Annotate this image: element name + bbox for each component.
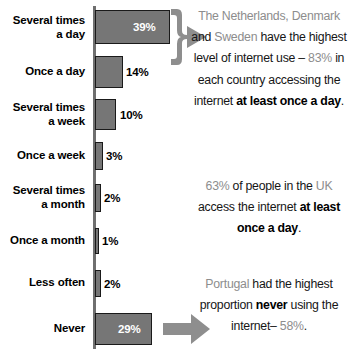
internet-use-frequency-infographic: Several times a day 39% Once a day 14% S… bbox=[0, 0, 352, 355]
bar-value: 14% bbox=[126, 67, 148, 79]
bar-label-line: a day bbox=[0, 28, 85, 42]
bar-value: 2% bbox=[104, 193, 120, 205]
bar-label: Several times a month bbox=[0, 184, 90, 211]
table-row: Never 29% bbox=[0, 313, 182, 345]
bar-label-line: a week bbox=[0, 115, 85, 129]
note1-period: . bbox=[341, 94, 344, 108]
bar-label: Several times a week bbox=[0, 101, 90, 128]
annotation-note-netherlands: The Netherlands, Denmark and Sweden have… bbox=[186, 6, 352, 112]
note1-countries-1: The Netherlands, bbox=[198, 9, 288, 23]
bar-label: Never bbox=[0, 322, 90, 336]
bar-label: Several times a day bbox=[0, 14, 90, 41]
bar bbox=[95, 56, 123, 88]
table-row: Once a month 1% bbox=[0, 228, 182, 254]
bar-label-line: Several times bbox=[0, 14, 85, 28]
bar-label-line: Once a day bbox=[0, 65, 85, 79]
bar bbox=[95, 184, 101, 212]
bar bbox=[95, 99, 116, 130]
bar-label: Once a day bbox=[0, 65, 90, 79]
note2-period: . bbox=[298, 221, 301, 235]
bar-value: 29% bbox=[118, 324, 140, 336]
table-row: Several times a day 39% bbox=[0, 10, 182, 44]
note2-country-uk: UK bbox=[316, 179, 333, 193]
bar bbox=[95, 142, 103, 170]
annotation-panel: The Netherlands, Denmark and Sweden have… bbox=[186, 0, 352, 355]
table-row: Once a day 14% bbox=[0, 56, 182, 88]
annotation-note-portugal: Portugal had the highest proportion neve… bbox=[186, 274, 352, 338]
annotation-note-uk: 63% of people in the UK access the inter… bbox=[186, 176, 352, 240]
bar-label-line: Once a week bbox=[0, 149, 85, 163]
bar-value: 10% bbox=[120, 110, 142, 122]
bar-label-line: Several times bbox=[0, 184, 85, 198]
bar-label-line: Several times bbox=[0, 101, 85, 115]
note3-country-portugal: Portugal bbox=[205, 277, 249, 291]
note1-emphasis: at least once a day bbox=[236, 94, 341, 108]
bar-value: 39% bbox=[133, 22, 155, 34]
horizontal-bar-chart: Several times a day 39% Once a day 14% S… bbox=[0, 0, 182, 355]
note2-text-2: access the internet bbox=[198, 200, 300, 214]
note3-stat-58: 58% bbox=[280, 319, 304, 333]
bar-label-line: Once a month bbox=[0, 234, 85, 248]
bar-label-line: Never bbox=[0, 322, 85, 336]
note2-text-1: of people in the bbox=[229, 179, 315, 193]
bar-label: Less often bbox=[0, 276, 90, 290]
bar-label: Once a week bbox=[0, 149, 90, 163]
table-row: Several times a week 10% bbox=[0, 99, 182, 130]
bar-label-line: Less often bbox=[0, 276, 85, 290]
bar-value: 1% bbox=[102, 236, 118, 248]
table-row: Less often 2% bbox=[0, 270, 182, 297]
bar bbox=[95, 228, 99, 254]
bar bbox=[95, 270, 101, 297]
note1-country-denmark: Denmark bbox=[292, 9, 340, 23]
note2-stat-63: 63% bbox=[206, 179, 230, 193]
bar-value: 2% bbox=[104, 279, 120, 291]
bar-label: Once a month bbox=[0, 234, 90, 248]
note1-conj: and bbox=[191, 30, 214, 44]
note1-country-sweden: Sweden bbox=[214, 30, 257, 44]
note3-emphasis: never bbox=[256, 298, 288, 312]
table-row: Once a week 3% bbox=[0, 142, 182, 170]
note3-period: . bbox=[304, 319, 307, 333]
note1-stat-83: 83% bbox=[308, 51, 332, 65]
bar-label-line: a month bbox=[0, 198, 85, 212]
table-row: Several times a month 2% bbox=[0, 184, 182, 212]
bar-value: 3% bbox=[106, 151, 122, 163]
